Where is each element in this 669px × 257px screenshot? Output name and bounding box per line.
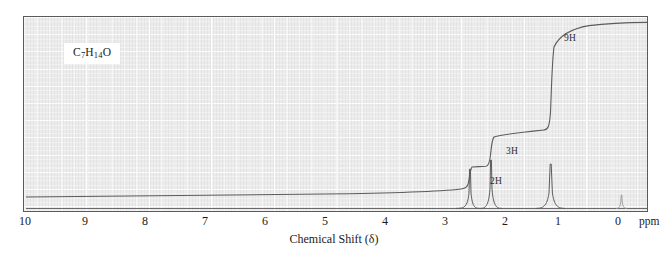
- formula-count-h: 14: [94, 50, 103, 60]
- x-tick-0: 0: [615, 214, 621, 229]
- nmr-spectrum-figure: C7H14O 9H 3H 2H 10 9 8 7 6 5 4 3 2 1 0 p…: [0, 0, 669, 257]
- integral-label-9h: 9H: [564, 33, 576, 43]
- x-tick-4: 4: [382, 214, 388, 229]
- x-axis-title: Chemical Shift (δ): [290, 232, 379, 247]
- integral-label-3h: 3H: [506, 146, 518, 156]
- x-tick-2: 2: [502, 214, 508, 229]
- formula-element-h: H: [85, 46, 94, 58]
- plot-frame: C7H14O 9H 3H 2H: [23, 16, 648, 212]
- integral-label-2h: 2H: [490, 176, 502, 186]
- x-tick-8: 8: [142, 214, 148, 229]
- x-tick-6: 6: [262, 214, 268, 229]
- x-tick-9: 9: [82, 214, 88, 229]
- x-tick-1: 1: [555, 214, 561, 229]
- x-tick-5: 5: [322, 214, 328, 229]
- x-tick-7: 7: [202, 214, 208, 229]
- x-axis-unit-label: ppm: [639, 215, 659, 227]
- formula-element-o: O: [103, 46, 112, 58]
- x-tick-10: 10: [19, 214, 31, 229]
- molecular-formula-label: C7H14O: [64, 43, 120, 64]
- x-axis: 10 9 8 7 6 5 4 3 2 1 0 ppm Chemical Shif…: [0, 212, 669, 257]
- peak-9h: [536, 164, 565, 208]
- formula-element-c: C: [73, 46, 81, 58]
- x-tick-3: 3: [442, 214, 448, 229]
- peak-tms: [616, 195, 627, 208]
